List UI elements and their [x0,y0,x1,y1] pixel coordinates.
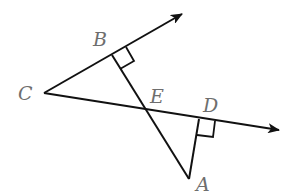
segment-da [189,119,199,179]
label-d: D [202,94,218,116]
label-a: A [194,173,210,194]
ray-cb [44,14,182,93]
label-e: E [149,85,164,107]
right-angle-mark-b [120,47,134,69]
right-angle-mark-d [197,121,215,137]
label-b: B [92,28,107,50]
segment-ba [112,55,189,179]
geometry-diagram: C B E D A [0,0,294,194]
label-c: C [18,82,33,104]
diagram-svg: C B E D A [0,0,294,194]
